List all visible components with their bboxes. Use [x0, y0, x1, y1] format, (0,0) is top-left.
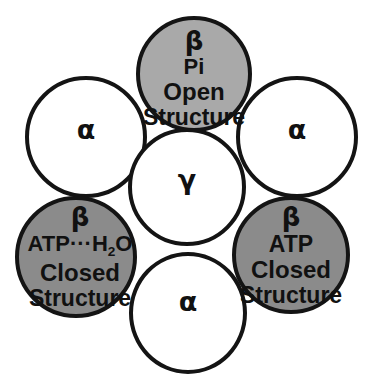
alpha-subunit-top-right	[236, 76, 358, 198]
alpha-subunit-bottom	[129, 252, 247, 374]
gamma-subunit-center	[128, 128, 246, 246]
beta-subunit-top-open	[136, 16, 252, 132]
atp-synthase-subunit-diagram: β Pi Open Structure β ATP···H2O Closed S…	[0, 0, 365, 384]
beta-subunit-right-closed	[232, 196, 350, 314]
beta-subunit-left-closed	[15, 196, 137, 318]
